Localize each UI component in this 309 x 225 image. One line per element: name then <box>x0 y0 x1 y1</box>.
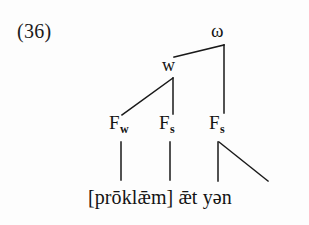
edge-w-to-foot-weak <box>122 78 173 115</box>
edge-omega-to-w <box>174 45 224 57</box>
edge-foot-strong-2-to-terminal-right <box>219 142 268 181</box>
foot-weak-node: Fw <box>109 113 128 132</box>
terminal-transcription-line: [prōklǣm] ǣt yən <box>88 186 232 209</box>
foot-weak-subscript: w <box>120 122 129 136</box>
weak-node: w <box>162 56 175 74</box>
foot-strong-2-letter: F <box>209 112 220 133</box>
foot-strong-1-subscript: s <box>170 122 175 136</box>
foot-weak-letter: F <box>109 112 120 133</box>
figure-container: (36) ω w Fw Fs Fs [prōklǣm] ǣt yən <box>0 0 309 225</box>
foot-strong-1-letter: F <box>159 112 170 133</box>
foot-strong-node-2: Fs <box>209 113 224 132</box>
foot-strong-node-1: Fs <box>159 113 174 132</box>
prosodic-word-node: ω <box>211 21 224 40</box>
foot-strong-2-subscript: s <box>220 122 225 136</box>
